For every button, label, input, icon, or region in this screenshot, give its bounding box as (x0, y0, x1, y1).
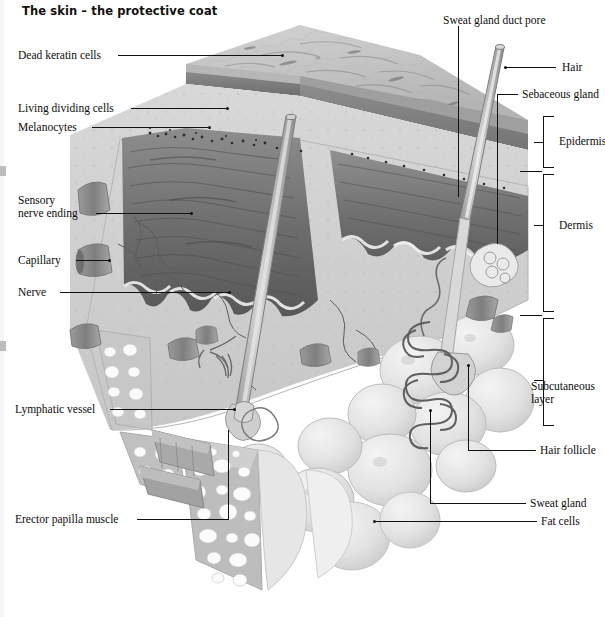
label-sweat-gland-duct-pore: Sweat gland duct pore (443, 14, 546, 27)
marker-capillary (108, 259, 111, 262)
label-hair-follicle: Hair follicle (540, 444, 596, 457)
leader-living-dividing-cells (131, 108, 228, 109)
figure-title: The skin – the protective coat (22, 4, 217, 18)
bracket-separator-epidermis-dermis (520, 171, 542, 172)
leader-dead-keratin-cells (118, 55, 283, 56)
marker-sweat-gland (429, 409, 432, 412)
marker-living-dividing-cells (226, 107, 229, 110)
marker-dead-keratin-cells (281, 54, 284, 57)
leader-erector-papilla-muscle (137, 519, 228, 520)
label-lymphatic-vessel: Lymphatic vessel (15, 403, 95, 416)
label-melanocytes: Melanocytes (18, 121, 77, 134)
label-erector-papilla-muscle: Erector papilla muscle (15, 513, 118, 526)
marker-fat-cells (373, 520, 376, 523)
scan-artifact-upper (0, 166, 6, 176)
label-nerve: Nerve (18, 286, 46, 299)
leader-sweat-gland (430, 503, 526, 504)
leader-nerve (60, 292, 230, 293)
scan-edge-artifact-top (0, 0, 4, 617)
label-sweat-gland: Sweat gland (530, 497, 587, 510)
leader-sweat-gland-duct-pore (458, 26, 459, 197)
leader-erector-papilla-muscle-riser (228, 430, 229, 520)
leader-hair-follicle-riser (468, 365, 469, 451)
label-capillary: Capillary (18, 254, 61, 267)
leader-melanocytes (92, 127, 210, 128)
bracket-label-subcutaneous-layer: Subcutaneous layer (531, 380, 595, 406)
skin-anatomy-figure: The skin – the protective coat Dead kera… (0, 0, 605, 617)
marker-lymphatic-vessel (233, 408, 236, 411)
scan-artifact-lower (0, 341, 6, 351)
marker-melanocytes (208, 126, 211, 129)
leader-sensory-nerve-ending (96, 213, 192, 214)
leader-sebaceous-gland (497, 94, 518, 95)
bracket-label-epidermis: Epidermis (559, 135, 605, 148)
leader-hair-follicle (468, 450, 536, 451)
marker-hair (504, 66, 507, 69)
leader-lymphatic-vessel (110, 409, 235, 410)
leader-sweat-gland-riser (430, 410, 431, 504)
label-dead-keratin-cells: Dead keratin cells (18, 49, 101, 62)
label-hair: Hair (562, 61, 582, 74)
label-sebaceous-gland: Sebaceous gland (522, 88, 599, 101)
bracket-separator-dermis-subcutaneous (520, 315, 542, 316)
marker-hair-follicle (467, 364, 470, 367)
leader-sebaceous-gland-riser (497, 94, 498, 244)
label-sensory-nerve-ending: Sensory nerve ending (18, 194, 78, 220)
bracket-label-dermis: Dermis (559, 219, 593, 232)
marker-nerve (228, 291, 231, 294)
label-fat-cells: Fat cells (541, 515, 580, 528)
leader-capillary (76, 260, 110, 261)
leader-fat-cells (375, 521, 537, 522)
label-living-dividing-cells: Living dividing cells (18, 102, 114, 115)
marker-sensory-nerve-ending (190, 212, 193, 215)
leader-hair (506, 67, 556, 68)
